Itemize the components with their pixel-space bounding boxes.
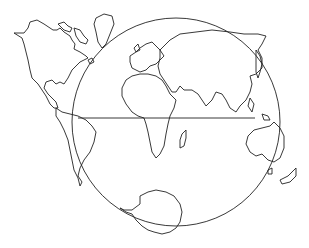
map-drawing bbox=[0, 0, 309, 248]
greenland bbox=[94, 14, 114, 48]
japan bbox=[256, 50, 262, 78]
world-map bbox=[0, 0, 309, 248]
antarctica bbox=[120, 190, 182, 234]
globe-circle bbox=[72, 18, 280, 226]
north-america bbox=[14, 20, 88, 108]
madagascar bbox=[180, 130, 186, 148]
new-zealand bbox=[280, 168, 296, 184]
south-america bbox=[56, 108, 96, 186]
